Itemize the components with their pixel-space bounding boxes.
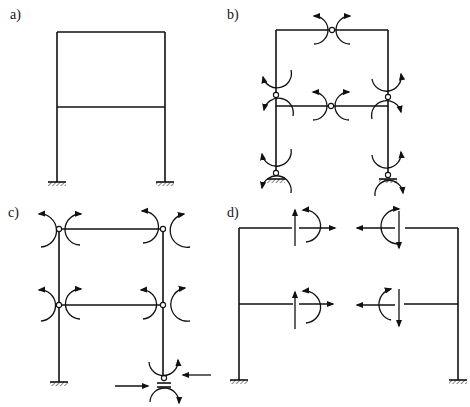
- moment-arrow-icon: [263, 70, 291, 88]
- hinge-icon: [385, 172, 390, 177]
- moment-arrow-icon: [39, 214, 57, 247]
- moment-arrow-icon: [65, 289, 81, 319]
- hinge-icon: [329, 27, 334, 32]
- moment-arrow-icon: [171, 288, 190, 321]
- hinge-icon: [273, 92, 278, 97]
- hinge-icon: [161, 375, 166, 380]
- moment-arrow-icon: [39, 290, 56, 321]
- panel-a-frame: [48, 32, 174, 186]
- moment-arrow-icon: [372, 101, 401, 119]
- moment-arrow-icon: [170, 214, 190, 247]
- moment-arrow-icon: [142, 211, 159, 243]
- hinge-icon: [160, 302, 165, 307]
- moment-arrow-icon: [264, 98, 293, 116]
- panel-c-frame: [39, 211, 211, 403]
- panel-label-a: a): [10, 7, 21, 23]
- moment-arrow-icon: [150, 388, 179, 403]
- hinge-icon: [56, 302, 61, 307]
- panel-b-frame: [262, 16, 403, 196]
- hinge-icon: [385, 94, 390, 99]
- moment-arrow-icon: [372, 74, 401, 91]
- moment-arrow-icon: [372, 152, 401, 168]
- moment-arrow-icon: [303, 210, 321, 242]
- panel-d-frame: [230, 209, 467, 384]
- panel-label-b: b): [227, 7, 239, 23]
- moment-arrow-icon: [303, 291, 321, 323]
- moment-arrow-icon: [381, 209, 399, 244]
- hinge-icon: [328, 103, 333, 108]
- hinge-icon: [56, 226, 61, 231]
- hinge-icon: [273, 170, 278, 175]
- structural-frames-figure: a) b) c) d): [0, 0, 470, 407]
- panel-label-c: c): [8, 205, 19, 221]
- hinge-icon: [160, 226, 165, 231]
- panel-label-d: d): [227, 205, 239, 221]
